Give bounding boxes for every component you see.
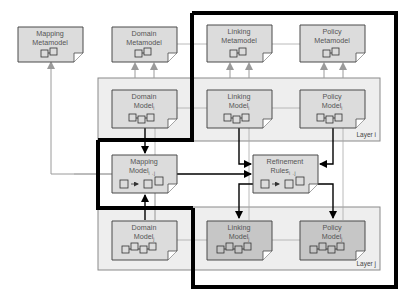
policy-model-i-node: Policy Modeli	[300, 90, 365, 128]
node-label: Linking	[228, 223, 251, 232]
node-label: Metamodel	[221, 36, 257, 45]
node-subscript: i→j	[149, 171, 156, 176]
svg-text:Modelj: Modelj	[229, 232, 250, 242]
node-label: Metamodel	[314, 36, 350, 45]
node-label: Rules	[271, 166, 290, 175]
node-subscript: i	[248, 106, 249, 111]
node-label: Mapping	[36, 29, 64, 38]
refinement-rules-node: Refinement Rulesi→j	[253, 155, 318, 193]
node-label: Policy	[322, 223, 342, 232]
node-label: Mapping	[130, 157, 158, 166]
node-label: Model	[229, 101, 249, 110]
policy-model-j-node: Policy Modelj	[300, 221, 365, 260]
node-label: Model	[129, 166, 149, 175]
mapping-model-node: Mapping Modeli→j	[112, 155, 177, 193]
linking-model-j-node: Linking Modelj	[207, 221, 272, 260]
layer-i-label: Layer i	[356, 131, 376, 139]
node-label: Model	[134, 232, 154, 241]
node-label: Policy	[322, 92, 342, 101]
node-label: Model	[322, 101, 342, 110]
node-label: Linking	[228, 27, 251, 36]
node-subscript: j	[247, 237, 249, 242]
instance-of-arrows	[135, 66, 343, 78]
node-label: Domain	[132, 223, 157, 232]
node-label: Linking	[228, 92, 251, 101]
svg-text:Modelj: Modelj	[134, 232, 155, 242]
domain-metamodel-node: Domain Metamodel	[112, 27, 177, 62]
node-label: Refinement	[267, 157, 304, 166]
linking-model-i-node: Linking Modeli	[207, 90, 272, 128]
node-label: Metamodel	[126, 38, 162, 47]
svg-text:Modeli: Modeli	[229, 101, 250, 111]
node-subscript: i	[341, 106, 342, 111]
node-subscript: i→j	[289, 171, 296, 176]
domain-model-j-node: Domain Modelj	[112, 221, 177, 260]
linking-metamodel-node: Linking Metamodel	[207, 25, 272, 62]
refinement-architecture-diagram: Layer i Layer j	[0, 0, 411, 303]
node-subscript: i	[153, 106, 154, 111]
svg-text:Modeli: Modeli	[322, 101, 343, 111]
domain-model-i-node: Domain Modeli	[112, 90, 177, 128]
layer-j-label: Layer j	[356, 260, 376, 268]
svg-text:Modelj: Modelj	[322, 232, 343, 242]
node-label: Domain	[132, 92, 157, 101]
policy-metamodel-node: Policy Metamodel	[300, 25, 365, 62]
node-label: Metamodel	[32, 38, 68, 47]
node-label: Domain	[132, 29, 157, 38]
node-label: Policy	[322, 27, 342, 36]
node-label: Model	[322, 232, 342, 241]
node-subscript: j	[340, 237, 342, 242]
mapping-metamodel-node: Mapping Metamodel	[18, 27, 83, 62]
node-label: Model	[134, 101, 154, 110]
node-label: Model	[229, 232, 249, 241]
node-subscript: j	[152, 237, 154, 242]
svg-text:Modeli: Modeli	[134, 101, 155, 111]
